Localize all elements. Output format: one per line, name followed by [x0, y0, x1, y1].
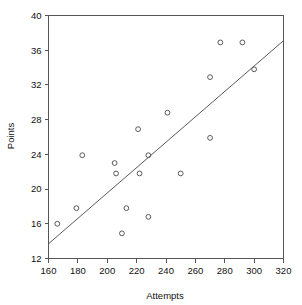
- data-point: [208, 135, 213, 140]
- data-point: [240, 40, 245, 45]
- data-point: [178, 171, 183, 176]
- regression-line-segment: [49, 41, 284, 244]
- data-point: [146, 214, 151, 219]
- y-axis-title: Points: [5, 123, 16, 150]
- x-tick-label: 160: [41, 265, 57, 276]
- y-tick-label: 16: [31, 218, 42, 229]
- y-tick-label: 40: [31, 10, 42, 21]
- data-point: [124, 206, 129, 211]
- data-points: [55, 40, 257, 236]
- data-point: [120, 231, 125, 236]
- data-point: [55, 221, 60, 226]
- data-point: [136, 127, 141, 132]
- x-tick-label: 260: [187, 265, 203, 276]
- x-tick-label: 280: [217, 265, 233, 276]
- y-tick-label: 32: [31, 79, 42, 90]
- data-point: [208, 75, 213, 80]
- axis-ticks: [45, 16, 284, 263]
- data-point: [80, 153, 85, 158]
- axes: [49, 16, 284, 259]
- y-tick-label: 12: [31, 253, 42, 264]
- x-tick-label: 220: [129, 265, 145, 276]
- plot-canvas: 1216202428323640160180200220240260280300…: [0, 0, 302, 305]
- y-tick-label: 20: [31, 183, 42, 194]
- x-tick-label: 200: [99, 265, 115, 276]
- data-point: [252, 67, 257, 72]
- x-tick-label: 180: [70, 265, 86, 276]
- x-axis-title: Attempts: [146, 290, 184, 301]
- scatter-plot-figure: 1216202428323640160180200220240260280300…: [0, 0, 302, 305]
- data-point: [114, 171, 119, 176]
- y-tick-label: 24: [31, 149, 42, 160]
- data-point: [112, 161, 117, 166]
- data-point: [137, 171, 142, 176]
- y-tick-label: 36: [31, 45, 42, 56]
- axis-tick-labels: 1216202428323640160180200220240260280300…: [31, 10, 292, 276]
- x-tick-label: 300: [246, 265, 262, 276]
- regression-line: [49, 41, 284, 244]
- y-tick-label: 28: [31, 114, 42, 125]
- x-tick-label: 240: [158, 265, 174, 276]
- data-point: [74, 206, 79, 211]
- data-point: [218, 40, 223, 45]
- x-tick-label: 320: [276, 265, 292, 276]
- data-point: [165, 110, 170, 115]
